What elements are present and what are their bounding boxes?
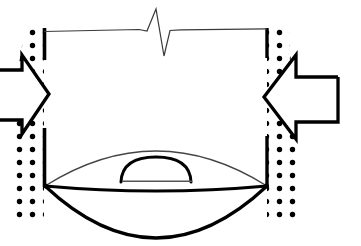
- membrane-dome: [121, 157, 191, 182]
- membrane-left-vertex: [43, 184, 48, 189]
- diagram-canvas: [0, 0, 361, 246]
- membrane-right-vertex: [264, 184, 269, 189]
- figure-root: Compressed container with bulging membra…: [0, 0, 361, 246]
